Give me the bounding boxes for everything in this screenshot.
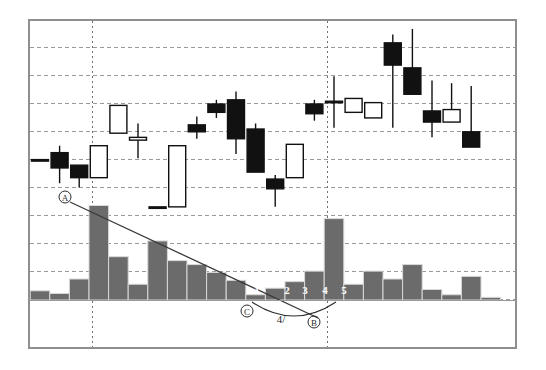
chart-figure: ABC4/12345 xyxy=(0,0,546,370)
candle-body-bearish xyxy=(149,207,166,209)
marker-c-text: C xyxy=(244,307,250,317)
candle-body-bearish xyxy=(32,160,49,162)
volume-bar xyxy=(363,271,383,300)
marker-b-text: B xyxy=(311,318,317,328)
candlestick xyxy=(345,98,362,112)
candlestick-chart-svg: ABC4/12345 xyxy=(0,0,546,370)
volume-bar xyxy=(383,279,403,300)
candlestick xyxy=(110,105,127,133)
wave-count-label: 5 xyxy=(341,284,347,296)
candle-body-bullish xyxy=(443,110,460,123)
candle-body-bearish xyxy=(228,100,245,139)
volume-bar xyxy=(442,295,462,300)
wave-count-label: 1 xyxy=(254,284,260,296)
volume-bar xyxy=(109,257,129,300)
candlestick xyxy=(247,123,264,172)
volume-bar xyxy=(69,279,89,300)
wave-count-label: 3 xyxy=(302,284,308,296)
marker-a-text: A xyxy=(62,193,69,203)
volume-bar xyxy=(148,241,168,300)
candle-body-bullish xyxy=(130,137,147,140)
candle-body-bearish xyxy=(404,68,421,94)
candle-body-bullish xyxy=(345,98,362,112)
candle-body-bearish xyxy=(188,125,205,132)
wave-count-label: 2 xyxy=(284,284,290,296)
candle-body-bearish xyxy=(51,153,68,168)
volume-bar xyxy=(128,284,148,300)
candle-body-bullish xyxy=(110,105,127,133)
candlestick xyxy=(169,146,186,207)
candle-body-bearish xyxy=(326,101,343,103)
candle-body-bullish xyxy=(365,103,382,118)
candle-body-bearish xyxy=(384,43,401,65)
candle-body-bearish xyxy=(71,165,88,178)
volume-bar xyxy=(30,291,50,300)
volume-bar xyxy=(461,276,481,300)
candle-body-bearish xyxy=(424,111,441,122)
candlestick xyxy=(90,146,107,178)
candlestick xyxy=(149,207,166,209)
volume-bar xyxy=(403,265,423,300)
candlestick xyxy=(286,144,303,177)
candle-body-bullish xyxy=(286,144,303,177)
candle-body-bearish xyxy=(463,132,480,147)
candlestick xyxy=(365,103,382,118)
volume-bar xyxy=(50,293,70,300)
volume-bar xyxy=(167,261,187,300)
wave-four-label: 4/ xyxy=(277,313,287,325)
wave-count-label: 4 xyxy=(322,284,328,296)
candle-body-bullish xyxy=(90,146,107,178)
candle-body-bullish xyxy=(169,146,186,207)
volume-bar xyxy=(207,272,227,300)
volume-bar xyxy=(422,290,442,301)
candle-body-bearish xyxy=(208,104,225,112)
candle-body-bearish xyxy=(267,179,284,189)
candle-body-bearish xyxy=(306,104,323,114)
volume-bar xyxy=(89,206,109,301)
candle-body-bearish xyxy=(247,129,264,172)
candlestick xyxy=(32,160,49,162)
volume-bar xyxy=(187,265,207,300)
